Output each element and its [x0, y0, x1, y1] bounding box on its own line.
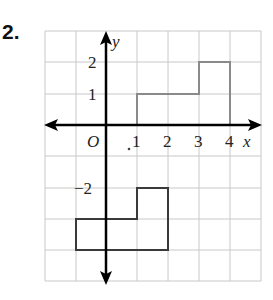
- coordinate-plane: y x O 1 2 3 4 2 1 −2: [0, 0, 273, 300]
- y-tick-2: 2: [88, 53, 97, 72]
- y-tick-1: 1: [88, 85, 97, 104]
- x-axis-label: x: [242, 132, 251, 151]
- x-tick-2: 2: [163, 132, 172, 151]
- origin-label: O: [87, 132, 99, 151]
- x-tick-4: 4: [225, 132, 234, 151]
- x-tick-1: 1: [132, 132, 141, 151]
- stray-dot: [128, 148, 131, 151]
- y-axis: [100, 31, 112, 285]
- x-tick-3: 3: [194, 132, 203, 151]
- y-tick-neg2: −2: [74, 179, 92, 198]
- y-axis-label: y: [110, 32, 120, 51]
- grid: [45, 31, 261, 281]
